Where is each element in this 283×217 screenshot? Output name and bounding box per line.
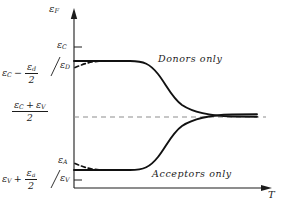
expression-midgap-fraction: εC+εV 2 bbox=[12, 100, 48, 122]
tick-label-valence-band-edge: εV bbox=[60, 173, 70, 184]
x-axis bbox=[74, 185, 272, 191]
expression-acceptor-operator: + bbox=[12, 174, 24, 184]
annotation-donors-only: Donors only bbox=[158, 53, 222, 64]
tick-label-donor-level: εD bbox=[60, 60, 70, 71]
expression-acceptor-fraction: εa 2 bbox=[25, 168, 38, 190]
expression-donor-lead: εC bbox=[2, 68, 12, 79]
donors-curve bbox=[74, 61, 257, 117]
expression-acceptor-level: εV + εa 2 bbox=[2, 168, 38, 190]
expression-donor-denominator: 2 bbox=[26, 74, 36, 84]
expression-midgap-denominator: 2 bbox=[25, 112, 35, 122]
leader-lines bbox=[51, 57, 60, 188]
expression-donor-numerator: εd bbox=[25, 62, 38, 73]
x-axis-label: T bbox=[268, 190, 275, 200]
expression-midgap-numerator: εC+εV bbox=[12, 100, 48, 111]
y-axis bbox=[71, 8, 77, 188]
donors-dashed-branch bbox=[75, 61, 105, 68]
acceptors-dashed-branch bbox=[75, 164, 105, 171]
fermi-level-figure: εF T εC εD εA εV εC − εd 2 εC+εV 2 εV + … bbox=[0, 0, 283, 217]
leader-donor-level bbox=[51, 57, 60, 76]
expression-midgap: εC+εV 2 bbox=[11, 100, 49, 122]
expression-donor-fraction: εd 2 bbox=[25, 62, 38, 84]
x-axis-label-symbol: T bbox=[268, 189, 275, 200]
y-axis-label-subscript: F bbox=[54, 7, 59, 15]
acceptors-curve bbox=[74, 114, 257, 170]
tick-label-acceptor-level: εA bbox=[58, 155, 68, 166]
y-axis-label: εF bbox=[49, 4, 59, 15]
annotation-acceptors-only: Acceptors only bbox=[152, 168, 232, 179]
expression-acceptor-denominator: 2 bbox=[26, 180, 36, 190]
expression-donor-level: εC − εd 2 bbox=[2, 62, 39, 84]
expression-acceptor-lead: εV bbox=[2, 174, 12, 185]
expression-acceptor-numerator: εa bbox=[25, 168, 38, 179]
expression-donor-operator: − bbox=[12, 68, 24, 78]
leader-acceptor-level bbox=[51, 170, 60, 188]
tick-label-conduction-band-edge: εC bbox=[57, 40, 67, 51]
